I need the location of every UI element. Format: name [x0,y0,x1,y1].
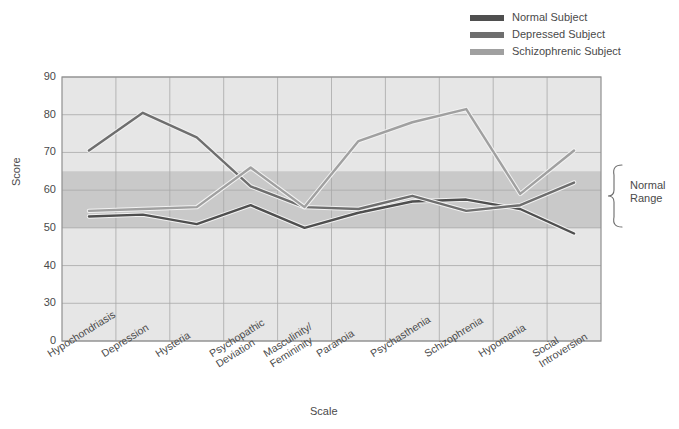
curly-brace-icon [606,163,628,229]
y-axis-title: Score [10,157,22,186]
y-tick-60: 60 [30,184,56,195]
x-axis-title: Scale [310,405,338,417]
normal-range-label-line2: Range [630,192,665,205]
normal-range-annotation: Normal Range [606,163,678,229]
plot-area [0,0,679,429]
y-tick-80: 80 [30,109,56,120]
normal-range-label-line1: Normal [630,179,665,192]
y-tick-50: 50 [30,222,56,233]
normal-range-label: Normal Range [630,179,665,205]
y-tick-30: 30 [30,297,56,308]
y-tick-70: 70 [30,146,56,157]
mmpi-profile-chart: Normal Subject Depressed Subject Schizop… [0,0,679,429]
y-tick-40: 40 [30,260,56,271]
y-tick-90: 90 [30,71,56,82]
